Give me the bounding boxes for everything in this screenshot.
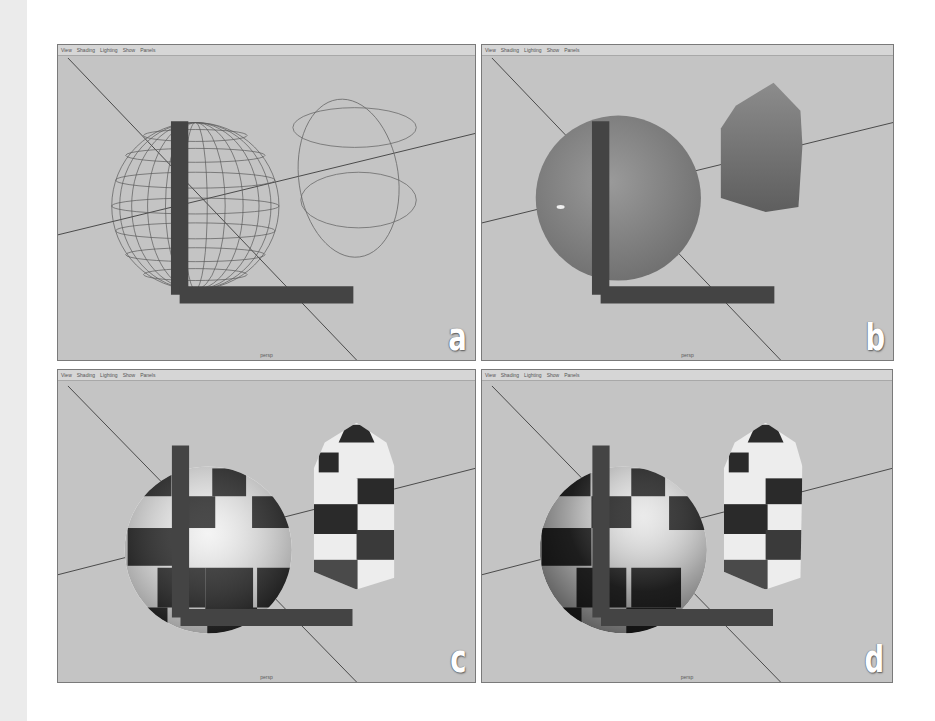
- menu-view[interactable]: View: [485, 45, 496, 55]
- menu-view[interactable]: View: [485, 370, 496, 380]
- viewport-menubar: View Shading Lighting Show Panels: [58, 45, 475, 56]
- menu-lighting[interactable]: Lighting: [524, 370, 542, 380]
- axis-gizmo-icon: [58, 56, 475, 360]
- panel-letter-c: c: [451, 640, 467, 678]
- menu-show[interactable]: Show: [123, 370, 136, 380]
- left-margin-strip: [0, 0, 27, 721]
- menu-show[interactable]: Show: [547, 370, 560, 380]
- menu-shading[interactable]: Shading: [77, 45, 95, 55]
- viewport-panel-a[interactable]: View Shading Lighting Show Panels: [57, 44, 476, 361]
- viewport-menubar: View Shading Lighting Show Panels: [482, 370, 892, 381]
- scene-view[interactable]: persp a: [58, 56, 475, 360]
- menu-lighting[interactable]: Lighting: [524, 45, 542, 55]
- menu-view[interactable]: View: [61, 45, 72, 55]
- scene-view[interactable]: persp c: [58, 381, 475, 682]
- viewport-panel-d[interactable]: View Shading Lighting Show Panels: [481, 369, 893, 683]
- panel-letter-a: a: [449, 318, 467, 356]
- menu-shading[interactable]: Shading: [501, 370, 519, 380]
- camera-label: persp: [681, 674, 694, 680]
- panel-letter-d: d: [864, 640, 884, 678]
- axis-gizmo-icon: [58, 381, 475, 682]
- menu-lighting[interactable]: Lighting: [100, 45, 118, 55]
- camera-label: persp: [260, 674, 273, 680]
- menu-panels[interactable]: Panels: [564, 370, 579, 380]
- menu-lighting[interactable]: Lighting: [100, 370, 118, 380]
- menu-show[interactable]: Show: [123, 45, 136, 55]
- panel-letter-b: b: [865, 318, 885, 356]
- menu-panels[interactable]: Panels: [140, 45, 155, 55]
- scene-view[interactable]: persp b: [482, 56, 893, 360]
- menu-shading[interactable]: Shading: [501, 45, 519, 55]
- menu-shading[interactable]: Shading: [77, 370, 95, 380]
- viewport-menubar: View Shading Lighting Show Panels: [482, 45, 893, 56]
- menu-panels[interactable]: Panels: [564, 45, 579, 55]
- axis-gizmo-icon: [482, 381, 892, 682]
- menu-panels[interactable]: Panels: [140, 370, 155, 380]
- camera-label: persp: [260, 352, 273, 358]
- axis-gizmo-icon: [482, 56, 893, 360]
- viewport-menubar: View Shading Lighting Show Panels: [58, 370, 475, 381]
- menu-view[interactable]: View: [61, 370, 72, 380]
- camera-label: persp: [681, 352, 694, 358]
- viewport-panel-b[interactable]: View Shading Lighting Show Panels: [481, 44, 894, 361]
- scene-view[interactable]: persp d: [482, 381, 892, 682]
- menu-show[interactable]: Show: [547, 45, 560, 55]
- viewport-panel-c[interactable]: View Shading Lighting Show Panels: [57, 369, 476, 683]
